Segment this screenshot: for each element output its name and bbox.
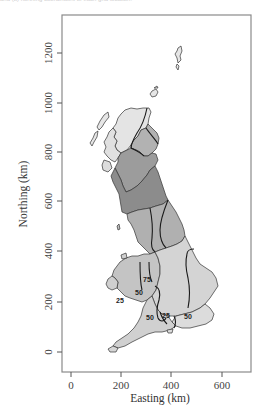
y-tick-400: 400 [42, 242, 54, 259]
y-tick-1200: 1200 [42, 42, 54, 65]
contour-label-25-south: 25 [162, 312, 170, 319]
x-axis-title: Easting (km) [130, 392, 190, 405]
y-tick-200: 200 [42, 293, 54, 310]
map-chart: 0 200 400 600 800 1000 1200 Northing (km… [0, 0, 269, 412]
contour-label-75: 75 [143, 276, 151, 283]
great-britain-map [90, 46, 218, 352]
y-tick-1000: 1000 [42, 92, 54, 115]
contour-label-50-east: 50 [184, 313, 192, 320]
contour-label-50-wales: 50 [135, 289, 143, 296]
x-tick-400: 400 [163, 379, 180, 391]
x-tick-600: 600 [214, 379, 231, 391]
y-tick-600: 600 [42, 192, 54, 209]
contour-label-50-south: 50 [146, 314, 154, 321]
x-tick-0: 0 [68, 379, 74, 391]
y-axis [57, 53, 62, 352]
y-axis-title: Northing (km) [17, 160, 30, 227]
contour-label-25-sw: 25 [116, 297, 124, 304]
y-tick-0: 0 [42, 349, 54, 355]
x-axis [71, 372, 222, 377]
y-tick-800: 800 [42, 143, 54, 160]
x-tick-200: 200 [113, 379, 130, 391]
